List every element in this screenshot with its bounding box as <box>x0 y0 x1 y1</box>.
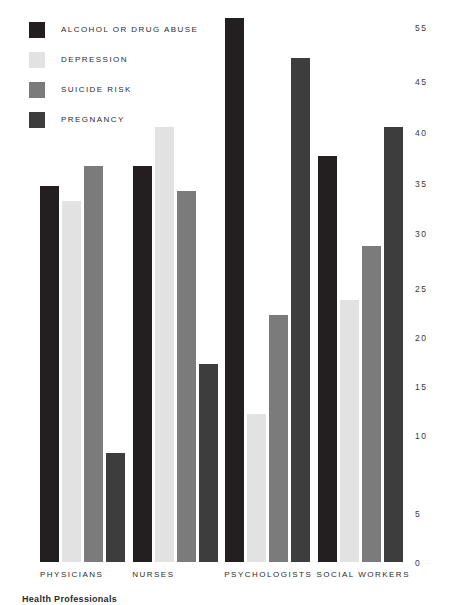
bar <box>291 58 310 562</box>
bar-group <box>225 18 318 562</box>
x-axis-category-label: PSYCHOLOGISTS <box>224 571 316 587</box>
y-axis-tick-label: 40 <box>415 129 443 138</box>
bar <box>40 186 59 562</box>
x-axis-category-label: PHYSICIANS <box>40 571 132 587</box>
bar <box>362 246 381 563</box>
bar <box>62 201 81 562</box>
y-axis-tick-label: 0 <box>415 559 443 568</box>
y-axis-tick-label: 5 <box>415 510 443 519</box>
bar-groups <box>40 18 410 562</box>
y-axis-tick-label: 25 <box>415 285 443 294</box>
bar <box>155 127 174 562</box>
x-axis-labels: PHYSICIANSNURSESPSYCHOLOGISTSSOCIAL WORK… <box>40 571 410 587</box>
y-axis-tick-label: 20 <box>415 334 443 343</box>
chart-caption: Health Professionals <box>22 594 117 605</box>
bar <box>225 18 244 562</box>
bar <box>177 191 196 562</box>
bar <box>269 315 288 562</box>
y-axis-tick-label: 55 <box>415 24 443 33</box>
bar <box>318 156 337 562</box>
y-axis-tick-label: 10 <box>415 432 443 441</box>
bar <box>133 166 152 562</box>
bar <box>340 300 359 562</box>
bar <box>247 414 266 562</box>
bar-stack <box>40 18 133 562</box>
y-axis-tick-label: 45 <box>415 78 443 87</box>
plot-area <box>40 18 410 562</box>
x-axis-category-label: SOCIAL WORKERS <box>316 571 410 587</box>
y-axis-tick-label: 15 <box>415 383 443 392</box>
bar <box>106 453 125 562</box>
bar-group <box>40 18 133 562</box>
y-axis-tick-label: 35 <box>415 180 443 189</box>
bar <box>199 364 218 562</box>
bar-group <box>318 18 411 562</box>
bar-group <box>133 18 226 562</box>
bar-chart: ALCOHOL OR DRUG ABUSEDEPRESSIONSUICIDE R… <box>0 0 452 605</box>
x-axis-category-label: NURSES <box>132 571 224 587</box>
y-axis-tick-label: 30 <box>415 230 443 239</box>
bar <box>384 127 403 562</box>
bar-stack <box>133 18 226 562</box>
bar <box>84 166 103 562</box>
y-axis: 55454035302520151050 <box>415 0 452 605</box>
bar-stack <box>225 18 318 562</box>
bar-stack <box>318 18 411 562</box>
